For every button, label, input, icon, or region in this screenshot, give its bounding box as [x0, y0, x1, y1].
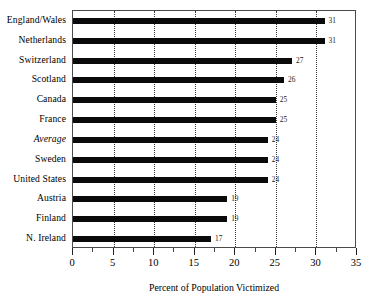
- bar-value-label: 26: [284, 76, 295, 84]
- gridline: [195, 11, 196, 247]
- x-tick-major: [113, 248, 114, 255]
- bar: [73, 196, 227, 202]
- x-tick-label: 0: [69, 257, 74, 269]
- bar-chart: England/WalesNetherlandsSwitzerlandScotl…: [0, 0, 368, 301]
- x-tick-minor: [133, 248, 134, 252]
- x-tick-major: [194, 248, 195, 255]
- x-axis-title: Percent of Population Victimized: [72, 282, 356, 294]
- gridline: [276, 11, 277, 247]
- x-tick-major: [275, 248, 276, 255]
- bar: [73, 117, 276, 123]
- bar: [73, 77, 284, 83]
- bar: [73, 97, 276, 103]
- x-tick-major: [315, 248, 316, 255]
- bar-value-label: 24: [268, 136, 279, 144]
- x-tick-major: [356, 248, 357, 255]
- x-tick-label: 30: [310, 257, 321, 269]
- x-tick-label: 15: [188, 257, 199, 269]
- bar: [73, 58, 292, 64]
- category-label: Switzerland: [0, 55, 66, 65]
- x-tick-major: [234, 248, 235, 255]
- category-label: Canada: [0, 94, 66, 104]
- category-label: Austria: [0, 193, 66, 203]
- bar-value-label: 31: [325, 17, 336, 25]
- x-tick-major: [72, 248, 73, 255]
- category-label: Scotland: [0, 74, 66, 84]
- x-tick-label: 35: [351, 257, 362, 269]
- x-tick-minor: [92, 248, 93, 252]
- x-tick-label: 20: [229, 257, 240, 269]
- category-axis-labels: England/WalesNetherlandsSwitzerlandScotl…: [0, 10, 66, 248]
- category-label: England/Wales: [0, 15, 66, 25]
- x-tick-minor: [336, 248, 337, 252]
- category-label: N. Ireland: [0, 233, 66, 243]
- bar-value-label: 27: [292, 57, 303, 65]
- x-tick-minor: [214, 248, 215, 252]
- bar-value-label: 25: [276, 96, 287, 104]
- bar: [73, 137, 268, 143]
- bar: [73, 177, 268, 183]
- bar: [73, 236, 211, 242]
- gridline: [154, 11, 155, 247]
- bar-value-label: 19: [227, 195, 238, 203]
- x-tick-minor: [295, 248, 296, 252]
- category-label: Average: [0, 134, 66, 144]
- bar: [73, 216, 227, 222]
- bar-value-label: 19: [227, 215, 238, 223]
- x-axis-tick-labels: 05101520253035: [72, 257, 356, 271]
- x-axis-ticks: [72, 248, 356, 256]
- category-label: France: [0, 114, 66, 124]
- category-label: Sweden: [0, 154, 66, 164]
- bar: [73, 157, 268, 163]
- gridline: [235, 11, 236, 247]
- bar-value-label: 17: [211, 235, 222, 243]
- x-tick-label: 5: [110, 257, 115, 269]
- category-label: United States: [0, 174, 66, 184]
- category-label: Finland: [0, 213, 66, 223]
- x-tick-minor: [173, 248, 174, 252]
- x-tick-label: 25: [270, 257, 281, 269]
- x-tick-minor: [255, 248, 256, 252]
- category-label: Netherlands: [0, 35, 66, 45]
- plot-area: 313127262525242424191917: [72, 10, 356, 248]
- gridline: [114, 11, 115, 247]
- bar: [73, 38, 325, 44]
- gridline: [316, 11, 317, 247]
- x-tick-major: [153, 248, 154, 255]
- bar: [73, 18, 325, 24]
- x-tick-label: 10: [148, 257, 159, 269]
- bar-value-label: 25: [276, 116, 287, 124]
- bar-value-label: 24: [268, 176, 279, 184]
- bar-value-label: 24: [268, 156, 279, 164]
- bar-value-label: 31: [325, 37, 336, 45]
